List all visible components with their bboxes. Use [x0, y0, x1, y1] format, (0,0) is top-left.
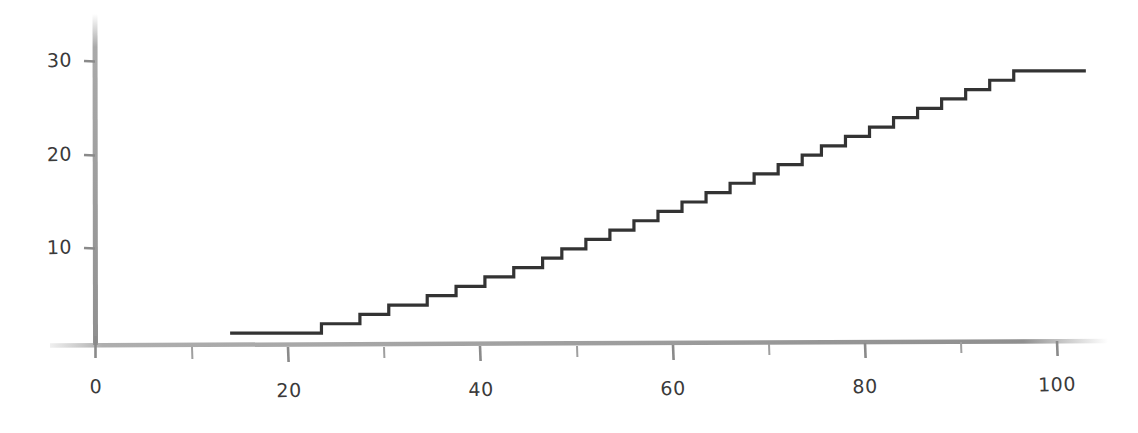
step-line-series	[230, 71, 1086, 333]
x-tick-label-100: 100	[1030, 372, 1084, 395]
x-axis-line	[50, 341, 1108, 346]
y-tick-label-30: 30	[34, 49, 72, 72]
x-tick-label-40: 40	[460, 378, 502, 401]
chart-container: 30 20 10 0 20 40 60 80 100	[0, 0, 1138, 433]
x-tick-label-0: 0	[78, 375, 114, 398]
x-tick-label-20: 20	[268, 379, 310, 402]
y-tick-label-20: 20	[34, 143, 72, 166]
y-axis-line	[95, 14, 96, 345]
y-tick-label-10: 10	[34, 236, 72, 259]
x-tick-label-60: 60	[652, 377, 694, 400]
chart-plot-area	[0, 0, 1138, 433]
x-tick-label-80: 80	[844, 375, 886, 398]
